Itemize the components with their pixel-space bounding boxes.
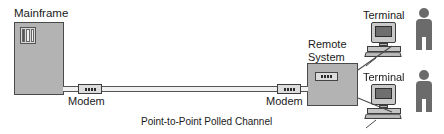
keyboard-icon [364, 114, 401, 119]
mainframe-slot [22, 29, 25, 42]
modem-led [284, 88, 286, 91]
modem-right[interactable] [277, 84, 301, 94]
remote-system-modem-icon [315, 72, 338, 81]
monitor-screen [375, 26, 392, 37]
modem-left-label: Modem [68, 96, 105, 107]
modem-led [293, 88, 295, 91]
cable-modem-to-remote-system [300, 86, 308, 92]
point-to-point-channel-line [101, 86, 278, 92]
monitor-icon [371, 22, 396, 43]
person-leg [426, 98, 432, 112]
keyboard-icon [364, 52, 401, 57]
terminal-bottom[interactable] [364, 84, 406, 120]
modem-right-label: Modem [266, 96, 303, 107]
person-head [419, 8, 429, 18]
user-figure-bottom [414, 70, 434, 112]
modem-led [85, 88, 87, 91]
cable-mainframe-to-modem [63, 86, 79, 92]
person-leg [416, 98, 422, 112]
terminal-top[interactable] [364, 22, 406, 58]
user-figure-top [414, 8, 434, 50]
cpu-base [367, 108, 401, 114]
mainframe-slot [26, 29, 29, 42]
modem-led [324, 75, 326, 78]
network-diagram: Mainframe Modem Modem Remote System Term… [0, 0, 444, 134]
terminal-bottom-label: Terminal [363, 72, 405, 83]
mainframe-label: Mainframe [14, 8, 68, 20]
person-leg [426, 36, 432, 50]
monitor-icon [371, 84, 396, 105]
modem-led [290, 88, 292, 91]
person-body [416, 19, 432, 37]
remote-system-cabinet[interactable] [307, 63, 358, 106]
monitor-screen [375, 88, 392, 99]
modem-led [327, 75, 329, 78]
mainframe-cabinet[interactable] [14, 22, 64, 95]
diagram-caption: Point-to-Point Polled Channel [141, 117, 272, 127]
modem-led [91, 88, 93, 91]
mainframe-drive-panel [20, 27, 36, 44]
person-body [416, 81, 432, 99]
cpu-base [367, 46, 401, 52]
person-head [419, 70, 429, 80]
modem-led [94, 88, 96, 91]
modem-led [330, 75, 332, 78]
modem-left[interactable] [78, 84, 102, 94]
modem-led [88, 88, 90, 91]
remote-system-label: Remote System [308, 38, 360, 63]
modem-led [287, 88, 289, 91]
terminal-top-label: Terminal [363, 10, 405, 21]
mainframe-slot [31, 29, 34, 42]
modem-led [321, 75, 323, 78]
person-leg [416, 36, 422, 50]
